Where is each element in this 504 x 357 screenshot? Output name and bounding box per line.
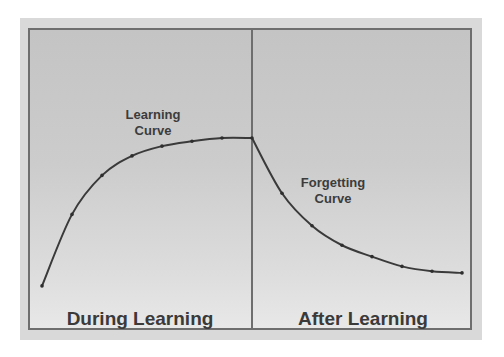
data-point-marker xyxy=(70,213,74,217)
data-point-marker xyxy=(40,284,44,288)
data-point-marker xyxy=(460,271,464,275)
data-point-marker xyxy=(430,269,434,273)
curve-plot xyxy=(0,0,504,357)
forgetting-curve-label: ForgettingCurve xyxy=(288,175,378,208)
data-point-marker xyxy=(160,144,164,148)
learning-curve-label: LearningCurve xyxy=(108,107,198,140)
after-learning-label: After Learning xyxy=(253,307,473,331)
data-point-marker xyxy=(400,265,404,269)
data-point-marker xyxy=(130,154,134,158)
data-point-marker xyxy=(100,174,104,178)
data-point-marker xyxy=(370,255,374,259)
learning-curve-line xyxy=(42,138,252,286)
data-point-marker xyxy=(310,224,314,228)
data-point-marker xyxy=(340,243,344,247)
data-point-marker xyxy=(190,139,194,143)
during-learning-label: During Learning xyxy=(30,307,250,331)
data-point-marker xyxy=(220,136,224,140)
data-point-marker xyxy=(250,136,254,140)
data-point-marker xyxy=(280,191,284,195)
